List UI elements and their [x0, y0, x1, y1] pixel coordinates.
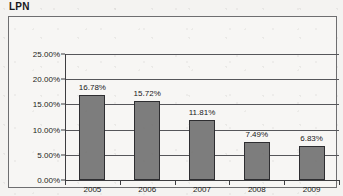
bar-series: 16.78%15.72%11.81%7.49%6.83%: [65, 54, 339, 180]
x-axis-tick-label: 2007: [175, 185, 230, 194]
bar-slot: 7.49%: [229, 54, 284, 180]
bar[interactable]: [299, 146, 325, 180]
x-axis-labels: 20052006200720082009: [65, 185, 339, 194]
bar[interactable]: [189, 120, 215, 180]
bar-slot: 11.81%: [175, 54, 230, 180]
page-title: LPN: [9, 1, 30, 12]
x-axis-tick-label: 2005: [65, 185, 120, 194]
bar[interactable]: [244, 142, 270, 180]
y-axis-tick-label: 25.00%: [33, 50, 60, 59]
plot-area: 0.00%5.00%10.00%15.00%20.00%25.00% 16.78…: [65, 54, 339, 180]
x-axis-tick-label: 2009: [284, 185, 339, 194]
y-axis-tick-label: 0.00%: [37, 176, 60, 185]
y-axis-tick-label: 10.00%: [33, 125, 60, 134]
bar-slot: 15.72%: [120, 54, 175, 180]
bar-slot: 6.83%: [284, 54, 339, 180]
bar[interactable]: [79, 95, 105, 180]
y-axis-tick-label: 15.00%: [33, 100, 60, 109]
y-axis-tick-label: 5.00%: [37, 150, 60, 159]
bar-value-label: 16.78%: [79, 83, 106, 92]
bar-value-label: 11.81%: [189, 108, 216, 117]
x-axis-tick-label: 2006: [120, 185, 175, 194]
chart-frame: 0.00%5.00%10.00%15.00%20.00%25.00% 16.78…: [8, 16, 337, 188]
bar-value-label: 7.49%: [245, 130, 268, 139]
bar-value-label: 15.72%: [134, 89, 161, 98]
x-axis-tick-label: 2008: [229, 185, 284, 194]
y-axis-tick-label: 20.00%: [33, 75, 60, 84]
chart-screenshot: LPN 0.00%5.00%10.00%15.00%20.00%25.00% 1…: [0, 0, 343, 196]
bar[interactable]: [134, 101, 160, 180]
bar-slot: 16.78%: [65, 54, 120, 180]
bar-value-label: 6.83%: [300, 134, 323, 143]
x-axis-tick-mark: [339, 180, 340, 185]
